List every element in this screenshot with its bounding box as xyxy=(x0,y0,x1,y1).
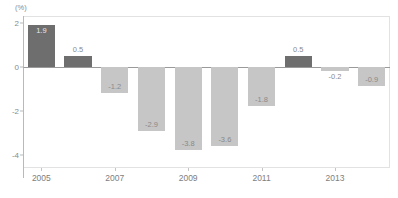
x-tick-mark xyxy=(115,168,116,171)
y-tick-mark xyxy=(20,110,24,111)
y-tick-mark xyxy=(20,154,24,155)
x-tick-mark xyxy=(188,168,189,171)
y-tick-label: 2 xyxy=(15,18,19,27)
y-tick-label: 0 xyxy=(15,62,19,71)
x-axis: 20052007200920112013 xyxy=(23,168,390,198)
bar xyxy=(285,56,312,67)
bar xyxy=(64,56,91,67)
x-tick-label: 2013 xyxy=(325,173,344,183)
x-tick-mark xyxy=(335,168,336,171)
y-tick-mark xyxy=(20,66,24,67)
bar-value-label: -3.6 xyxy=(218,135,231,144)
x-tick-label: 2005 xyxy=(32,173,51,183)
bar-value-label: -3.8 xyxy=(182,139,195,148)
bar-value-label: -0.9 xyxy=(365,75,378,84)
bar-value-label: -1.8 xyxy=(255,95,268,104)
bar xyxy=(321,67,348,71)
y-tick-label: -4 xyxy=(12,150,19,159)
bar-chart: (%) 20-2-4 1.90.5-1.2-2.9-3.8-3.6-1.80.5… xyxy=(0,0,398,198)
bar-value-label: 1.9 xyxy=(36,26,46,35)
plot-area: 20-2-4 1.90.5-1.2-2.9-3.8-3.6-1.80.5-0.2… xyxy=(23,16,390,168)
bar-value-label: -1.2 xyxy=(108,82,121,91)
y-axis-unit-label: (%) xyxy=(15,3,27,12)
x-tick-label: 2009 xyxy=(179,173,198,183)
x-tick-label: 2011 xyxy=(252,173,270,183)
x-tick-mark xyxy=(41,168,42,171)
bar xyxy=(175,67,202,151)
x-tick-mark xyxy=(262,168,263,171)
y-tick-label: -2 xyxy=(12,106,19,115)
bar-value-label: 0.5 xyxy=(293,45,303,54)
bar-value-label: -2.9 xyxy=(145,120,158,129)
y-tick-mark xyxy=(20,22,24,23)
bar-value-label: 0.5 xyxy=(73,45,83,54)
bar-value-label: -0.2 xyxy=(328,72,341,81)
x-tick-label: 2007 xyxy=(105,173,124,183)
